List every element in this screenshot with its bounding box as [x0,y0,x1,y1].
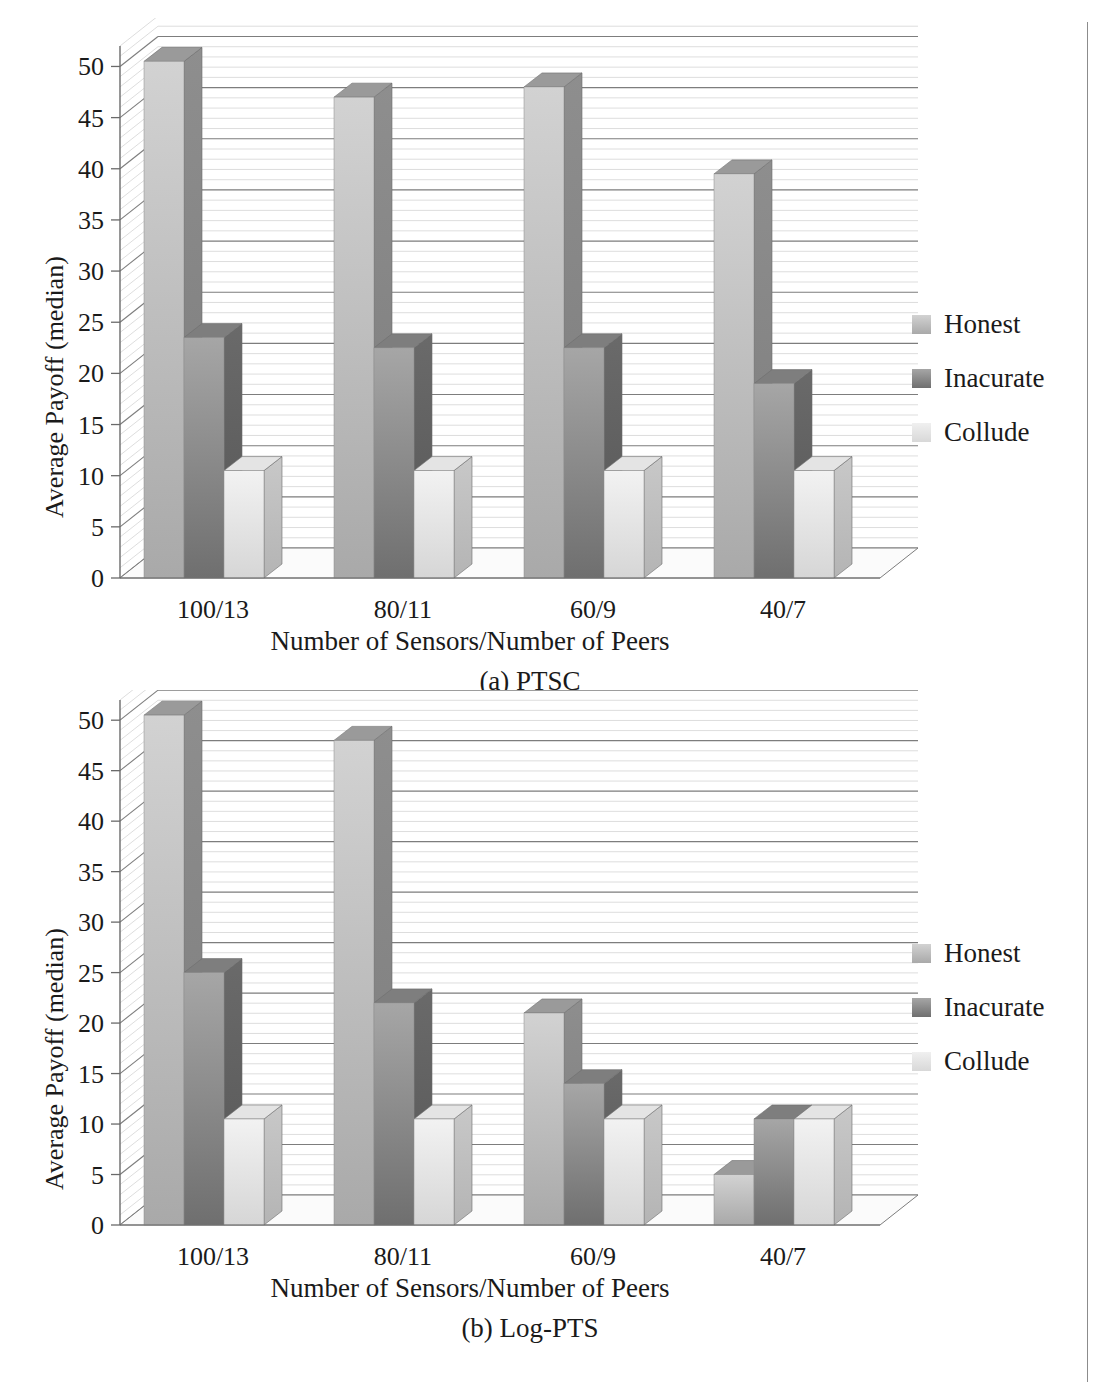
legend-swatch-honest [912,315,931,334]
y-tick-label: 15 [78,1060,104,1089]
y-tick-label: 45 [78,757,104,786]
y-tick-label: 10 [78,462,104,491]
y-tick-label: 30 [78,257,104,286]
x-axis-title-a: Number of Sensors/Number of Peers [25,626,915,657]
y-tick-label: 30 [78,908,104,937]
legend-swatch-collude [912,423,931,442]
legend-swatch-collude [912,1052,931,1071]
legend-item-honest: Honest [912,940,1044,967]
legend-swatch-inacurate [912,369,931,388]
legend-swatch-honest [912,944,931,963]
legend-item-inacurate: Inacurate [912,994,1044,1021]
y-tick-label: 35 [78,858,104,887]
bar-collude-80-11 [414,1105,472,1225]
figure-caption-b: (b) Log-PTS [0,1313,1060,1344]
x-axis-title-b: Number of Sensors/Number of Peers [25,1273,915,1304]
y-tick-label: 25 [78,308,104,337]
legend-label-inacurate: Inacurate [944,365,1044,392]
y-tick-label: 10 [78,1110,104,1139]
y-tick-label: 40 [78,807,104,836]
chart-canvas-log-pts: 50454035302520151050100/1380/1160/940/7 [0,690,1000,1265]
x-category-label: 60/9 [570,1242,616,1265]
y-axis-title-a: Average Payoff (median) [40,256,70,518]
legend-label-honest: Honest [944,311,1021,338]
y-tick-label: 5 [91,1161,104,1190]
legend-item-collude: Collude [912,419,1044,446]
legend-item-honest: Honest [912,311,1044,338]
y-tick-label: 5 [91,513,104,542]
bar-collude-40-7 [794,457,852,578]
bar-collude-60-9 [604,457,662,578]
x-category-label: 80/11 [374,595,432,618]
y-tick-label: 0 [91,1211,104,1240]
y-tick-label: 45 [78,104,104,133]
y-tick-label: 35 [78,206,104,235]
legend-label-collude: Collude [944,1048,1030,1075]
bar-collude-100-13 [224,1105,282,1225]
legend-item-collude: Collude [912,1048,1044,1075]
y-tick-label: 50 [78,706,104,735]
x-category-label: 100/13 [177,1242,249,1265]
bar-collude-60-9 [604,1105,662,1225]
legend-swatch-inacurate [912,998,931,1017]
bar-collude-100-13 [224,457,282,578]
x-category-label: 40/7 [760,1242,806,1265]
x-category-label: 40/7 [760,595,806,618]
y-tick-label: 15 [78,411,104,440]
figure-ptsc: Average Payoff (median) 5045403530252015… [0,18,1000,622]
legend-item-inacurate: Inacurate [912,365,1044,392]
y-tick-label: 50 [78,52,104,81]
y-tick-label: 40 [78,155,104,184]
legend-label-honest: Honest [944,940,1021,967]
legend-log-pts: Honest Inacurate Collude [912,940,1044,1102]
legend-label-collude: Collude [944,419,1030,446]
x-category-label: 80/11 [374,1242,432,1265]
chart-canvas-ptsc: 50454035302520151050100/1380/1160/940/7 [0,18,1000,618]
page-margin-rule [1087,22,1088,1382]
y-axis-title-b: Average Payoff (median) [40,928,70,1190]
legend-label-inacurate: Inacurate [944,994,1044,1021]
y-tick-label: 0 [91,564,104,593]
y-tick-label: 20 [78,359,104,388]
x-category-label: 60/9 [570,595,616,618]
y-tick-label: 20 [78,1009,104,1038]
bar-collude-40-7 [794,1105,852,1225]
x-category-label: 100/13 [177,595,249,618]
bar-collude-80-11 [414,457,472,578]
y-tick-label: 25 [78,959,104,988]
legend-ptsc: Honest Inacurate Collude [912,311,1044,473]
figure-log-pts: Average Payoff (median) 5045403530252015… [0,690,1000,1269]
